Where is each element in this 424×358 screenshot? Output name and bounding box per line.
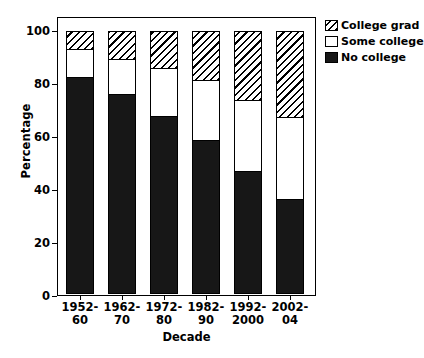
legend-swatch-white-icon [325,36,338,47]
segment-no-college [66,77,94,294]
bar-1992-2000 [234,31,262,296]
segment-no-college [192,140,220,294]
segment-no-college [108,94,136,294]
legend-swatch-black-icon [325,52,338,63]
y-tick-label-20: 20 [20,238,50,250]
segment-some-college [66,49,94,78]
y-tick-label-100: 100 [20,26,50,38]
legend-item-no-college: No college [325,50,417,65]
x-tick-label-line2: 04 [260,314,320,327]
segment-some-college [150,68,178,117]
segment-college-grad [276,31,304,118]
legend-item-college-grad: College grad [325,18,417,33]
segment-college-grad [150,31,178,69]
legend-label-some-college: Some college [341,36,424,47]
y-tick-label-80: 80 [20,79,50,91]
bar-1972-80 [150,31,178,296]
bar-1962-70 [108,31,136,296]
bar-2002-04 [276,31,304,296]
legend-label-no-college: No college [341,52,406,63]
x-tick-label-2002-04: 2002- 04 [260,301,320,326]
segment-college-grad [108,31,136,60]
segment-some-college [234,100,262,172]
y-tick-mark-0 [52,296,57,297]
segment-college-grad [66,31,94,50]
y-tick-label-40: 40 [20,185,50,197]
segment-college-grad [192,31,220,81]
y-tick-label-0: 0 [20,291,50,303]
segment-college-grad [234,31,262,101]
segment-no-college [276,199,304,294]
bar-1952-60 [66,31,94,296]
segment-some-college [192,80,220,141]
segment-some-college [108,59,136,95]
segment-no-college [234,171,262,294]
bar-1982-90 [192,31,220,296]
legend-swatch-hatched-icon [325,20,338,31]
segment-some-college [276,117,304,199]
y-tick-label-60: 60 [20,132,50,144]
legend-item-some-college: Some college [325,34,417,49]
legend: College grad Some college No college [325,18,417,66]
legend-label-college-grad: College grad [341,20,419,31]
bars-layer [58,31,315,296]
x-tick-label-line1: 2002- [260,301,320,314]
x-axis-title: Decade [57,330,316,344]
segment-no-college [150,116,178,294]
